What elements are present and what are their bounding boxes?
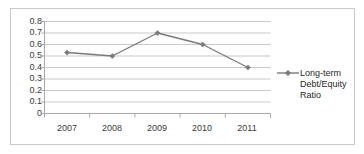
x-axis-tick-marks [45, 114, 271, 118]
line-chart: 0.8 0.7 0.6 0.5 0.4 0.3 0.2 0.1 0 2007 2… [0, 0, 364, 154]
data-series-line [67, 33, 248, 68]
legend-marker [277, 70, 299, 76]
data-point-markers [65, 30, 251, 70]
legend-label-line: Ratio [300, 90, 321, 100]
legend-label-line: Long-term [300, 68, 341, 78]
legend-label-line: Debt/Equity [300, 79, 347, 89]
